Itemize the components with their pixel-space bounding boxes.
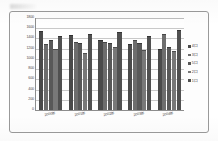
bar-group (95, 18, 125, 110)
y-axis-tick-label: 400 (14, 88, 34, 92)
bar (74, 42, 78, 110)
legend-swatch-icon (188, 54, 191, 57)
bar-group (125, 18, 155, 110)
y-axis-tick-label: 1600 (14, 26, 34, 30)
bar (98, 40, 102, 110)
bar (147, 36, 151, 110)
y-axis: 020040060080010001200140016001800 (14, 18, 34, 110)
legend-item-label: 3口 (192, 53, 198, 57)
bar (88, 34, 92, 110)
y-axis-tick-label: 1000 (14, 57, 34, 61)
bar (83, 53, 87, 110)
chart-plot-wrapper: 020040060080010001200140016001800 2000年2… (10, 12, 208, 132)
legend-item: 5口 (188, 59, 210, 68)
y-axis-tick-label: 1400 (14, 37, 34, 41)
x-axis-tick-label: 2004年 (154, 109, 186, 131)
legend-item-label: 2口 (192, 70, 198, 74)
legend-item-label: 5口 (192, 61, 198, 65)
legend-item: 3口 (188, 51, 210, 60)
bar-group (66, 18, 96, 110)
legend-swatch-icon (188, 79, 191, 82)
bar (117, 32, 121, 110)
legend-swatch-icon (188, 71, 191, 74)
x-axis-tick-label: 2000年 (35, 109, 67, 131)
bar (177, 30, 181, 110)
plot-area (35, 18, 184, 111)
legend-item-label: 1口 (192, 79, 198, 83)
bar (167, 47, 171, 110)
bar-series-container (36, 18, 184, 110)
scan-artifact-speck (10, 4, 36, 9)
bar (133, 40, 137, 110)
bar (39, 31, 43, 110)
legend-swatch-icon (188, 62, 191, 65)
bar-group (154, 18, 184, 110)
x-axis-tick-label: 2001年 (65, 109, 97, 131)
bar (162, 34, 166, 110)
bar (113, 47, 117, 110)
bar (53, 49, 57, 110)
bar (78, 43, 82, 110)
bar (142, 50, 146, 110)
y-axis-tick-label: 600 (14, 78, 34, 82)
bar (137, 43, 141, 110)
legend-item: 1口 (188, 76, 210, 85)
x-axis-tick-label: 2003年 (124, 109, 156, 131)
bar (44, 44, 48, 110)
legend-swatch-icon (188, 45, 191, 48)
bar (108, 43, 112, 110)
chart-legend: 4口3口5口2口1口 (188, 42, 210, 85)
bar (128, 44, 132, 110)
legend-item: 2口 (188, 68, 210, 77)
x-axis: 2000年2001年2002年2003年2004年 (35, 112, 183, 128)
bar (158, 49, 162, 110)
bar (58, 36, 62, 110)
bar (49, 40, 53, 111)
chart-frame: 020040060080010001200140016001800 2000年2… (9, 11, 209, 133)
x-axis-tick-label: 2002年 (95, 109, 127, 131)
y-axis-tick-label: 0 (14, 108, 34, 112)
bar-group (36, 18, 66, 110)
legend-item-label: 4口 (192, 44, 198, 48)
y-axis-tick-label: 800 (14, 67, 34, 71)
y-axis-tick-label: 200 (14, 98, 34, 102)
bar (172, 51, 176, 110)
y-axis-tick-label: 1800 (14, 16, 34, 20)
bar (103, 42, 107, 110)
bar (69, 35, 73, 110)
y-axis-tick-label: 1200 (14, 47, 34, 51)
legend-item: 4口 (188, 42, 210, 51)
